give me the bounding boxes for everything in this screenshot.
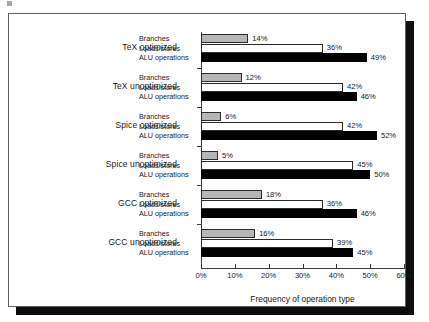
bar-value-label: 42% [347, 82, 362, 92]
series-label: ALU operations [139, 248, 197, 257]
bar-row: Branches12% [9, 73, 405, 82]
bar [201, 131, 377, 140]
series-label: Branches [139, 34, 197, 43]
series-label: Loads/stores [139, 83, 197, 92]
bar-row: ALU operations52% [9, 131, 405, 140]
y-axis-tick [197, 107, 202, 108]
bar-value-label: 49% [371, 53, 386, 63]
bar-row: ALU operations46% [9, 92, 405, 101]
bar-row: Loads/stores39% [9, 239, 405, 248]
bar [201, 229, 255, 238]
y-axis-tick [197, 68, 202, 69]
series-label: Branches [139, 151, 197, 160]
bar [201, 239, 333, 248]
series-label: ALU operations [139, 131, 197, 140]
bar-row: Branches14% [9, 34, 405, 43]
bar-row: Branches6% [9, 112, 405, 121]
bar-value-label: 45% [357, 248, 372, 258]
x-axis-tick [370, 264, 371, 269]
bar-row: Branches5% [9, 151, 405, 160]
scan-artifact-speck [7, 1, 12, 6]
bar-group: TeX unoptimizedBranches12%Loads/stores42… [9, 73, 405, 102]
bar [201, 122, 343, 131]
bar-value-label: 42% [347, 121, 362, 131]
bar-value-label: 6% [225, 112, 236, 122]
bar [201, 248, 353, 257]
bar-group: TeX optimizedBranches14%Loads/stores36%A… [9, 34, 405, 63]
bar-row: ALU operations50% [9, 170, 405, 179]
bar [201, 170, 370, 179]
bar-value-label: 18% [266, 190, 281, 200]
bar-value-label: 46% [361, 209, 376, 219]
bar [201, 161, 353, 170]
series-label: ALU operations [139, 170, 197, 179]
bar-row: Loads/stores42% [9, 83, 405, 92]
bar-value-label: 52% [381, 131, 396, 141]
series-label: Branches [139, 229, 197, 238]
bar-value-label: 36% [327, 43, 342, 53]
bar [201, 190, 262, 199]
y-axis-tick [197, 224, 202, 225]
bar [201, 44, 323, 53]
x-axis-tick-label: 0% [186, 271, 216, 280]
bar [201, 209, 357, 218]
bar [201, 200, 323, 209]
bar-row: ALU operations49% [9, 53, 405, 62]
x-axis-tick [201, 264, 202, 269]
bar [201, 92, 357, 101]
bar-group: Spice unoptimizedBranches5%Loads/stores4… [9, 151, 405, 180]
series-label: Loads/stores [139, 200, 197, 209]
bar-row: ALU operations45% [9, 248, 405, 257]
series-label: Loads/stores [139, 161, 197, 170]
bar-value-label: 12% [246, 73, 261, 83]
bar-row: Loads/stores42% [9, 122, 405, 131]
bar-value-label: 46% [361, 92, 376, 102]
x-axis-tick-label: 40% [321, 271, 351, 280]
bar-value-label: 16% [259, 229, 274, 239]
x-axis-tick [404, 264, 405, 269]
x-axis-title: Frequency of operation type [201, 294, 404, 304]
series-label: Branches [139, 112, 197, 121]
y-axis-tick [197, 185, 202, 186]
bar [201, 53, 367, 62]
series-label: Loads/stores [139, 44, 197, 53]
bar-value-label: 36% [327, 199, 342, 209]
bar [201, 112, 221, 121]
series-label: ALU operations [139, 53, 197, 62]
bar-value-label: 14% [252, 34, 267, 44]
figure-frame: Frequency of operation type TeX optimize… [8, 13, 406, 307]
bar [201, 73, 242, 82]
bar-value-label: 5% [222, 151, 233, 161]
bar-value-label: 50% [374, 170, 389, 180]
series-label: ALU operations [139, 209, 197, 218]
bar [201, 151, 218, 160]
bar-row: Loads/stores36% [9, 200, 405, 209]
bar-group: GCC unoptimizedBranches16%Loads/stores39… [9, 229, 405, 258]
x-axis-tick-label: 30% [288, 271, 318, 280]
y-axis-tick [197, 146, 202, 147]
bar-group: GCC optimizedBranches18%Loads/stores36%A… [9, 190, 405, 219]
series-label: Loads/stores [139, 122, 197, 131]
x-axis-tick [269, 264, 270, 269]
bar-row: Loads/stores36% [9, 44, 405, 53]
x-axis-tick [235, 264, 236, 269]
x-axis-tick [336, 264, 337, 269]
bar [201, 34, 248, 43]
bar-row: ALU operations46% [9, 209, 405, 218]
series-label: ALU operations [139, 92, 197, 101]
bar-row: Branches18% [9, 190, 405, 199]
bar-row: Loads/stores45% [9, 161, 405, 170]
series-label: Loads/stores [139, 239, 197, 248]
x-axis-tick [303, 264, 304, 269]
bar [201, 83, 343, 92]
bar-chart-plot-area: Frequency of operation type TeX optimize… [9, 14, 405, 306]
series-label: Branches [139, 73, 197, 82]
series-label: Branches [139, 190, 197, 199]
x-axis-tick-label: 60% [389, 271, 419, 280]
bar-row: Branches16% [9, 229, 405, 238]
bar-value-label: 39% [337, 238, 352, 248]
x-axis-tick-label: 50% [355, 271, 385, 280]
x-axis-tick-label: 10% [220, 271, 250, 280]
bar-value-label: 45% [357, 160, 372, 170]
x-axis-tick-label: 20% [254, 271, 284, 280]
